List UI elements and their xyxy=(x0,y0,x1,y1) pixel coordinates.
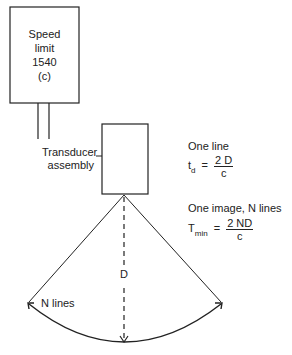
speed-limit-text: Speed limit 1540 (c) xyxy=(10,7,79,103)
speed-line-4: (c) xyxy=(10,69,79,83)
speed-line-1: Speed xyxy=(10,27,79,41)
transducer-box xyxy=(102,124,148,194)
td-subscript: d xyxy=(191,166,195,175)
transducer-label: Transducer assembly xyxy=(42,146,94,172)
numerator: 2 ND xyxy=(226,217,253,230)
one-line-equation: td = 2 D c xyxy=(188,154,233,179)
depth-label: D xyxy=(120,268,128,281)
arc-label: N lines xyxy=(41,297,75,310)
denominator: c xyxy=(214,167,233,179)
fraction: 2 ND c xyxy=(226,217,253,242)
equals-sign: = xyxy=(214,222,220,234)
speed-line-3: 1540 xyxy=(10,55,79,69)
one-line-title: One line xyxy=(188,140,229,153)
transducer-label-line2: assembly xyxy=(42,159,94,172)
speed-line-2: limit xyxy=(10,41,79,55)
sector-left-edge xyxy=(29,195,124,302)
tmin-symbol: T xyxy=(188,222,195,234)
numerator: 2 D xyxy=(214,154,233,167)
tmin-subscript: min xyxy=(195,229,208,238)
one-image-title: One image, N lines xyxy=(188,202,282,215)
transducer-label-line1: Transducer xyxy=(42,146,94,159)
denominator: c xyxy=(226,230,253,242)
fraction: 2 D c xyxy=(214,154,233,179)
one-image-equation: Tmin = 2 ND c xyxy=(188,217,253,242)
equals-sign: = xyxy=(202,159,208,171)
